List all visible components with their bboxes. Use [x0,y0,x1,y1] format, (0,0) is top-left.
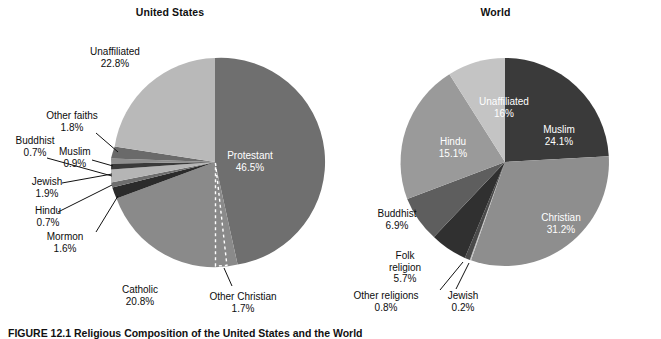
pie-slice-unaffiliated [115,58,215,162]
label-us-other-christian: Other Christian 1.7% [195,291,291,314]
panel-united-states: United States Unaffiliat [0,0,340,320]
figure-caption: FIGURE 12.1 Religious Composition of the… [8,327,363,339]
label-world-jewish: Jewish 0.2% [432,290,494,313]
label-us-muslim: Muslim 0.9% [59,146,91,169]
pie-chart-united-states [0,0,340,320]
label-us-unaffiliated: Unaffiliated 22.8% [60,46,170,69]
label-world-christian: Christian 31.2% [520,212,602,235]
label-us-jewish: Jewish 1.9% [14,176,80,199]
label-world-buddhist: Buddhist 6.9% [362,208,432,231]
panel-world: World Unaffiliated 16% Muslim [330,0,661,320]
label-world-unaffiliated: Unaffiliated 16% [452,96,556,119]
label-world-hindu: Hindu 15.1% [422,136,484,159]
label-us-mormon: Mormon 1.6% [28,231,102,254]
figure-caption-text: Religious Composition of the United Stat… [74,327,363,339]
label-world-folk-religion: Folk religion 5.7% [372,250,438,285]
label-world-muslim: Muslim 24.1% [522,124,596,147]
figure-container: United States Unaffiliat [0,0,661,339]
label-us-protestant: Protestant 46.5% [212,150,288,173]
figure-caption-number: FIGURE 12.1 [8,327,71,339]
label-us-catholic: Catholic 20.8% [102,284,178,307]
label-world-other-religions: Other religions 0.8% [334,290,438,313]
label-us-hindu: Hindu 0.7% [17,205,79,228]
label-us-other-faiths: Other faiths 1.8% [24,110,120,133]
